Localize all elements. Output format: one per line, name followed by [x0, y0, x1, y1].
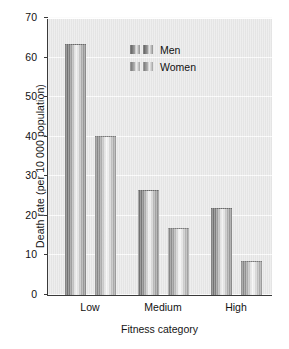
legend-chip-icon [143, 45, 153, 54]
gridline [48, 17, 272, 18]
y-tick-label: 30 [25, 169, 37, 181]
legend-swatch-women [130, 62, 153, 71]
legend-label-women: Women [160, 61, 196, 73]
legend-label-men: Men [160, 44, 180, 56]
y-axis-title: Death rate (per 10 000 population) [34, 26, 46, 306]
y-tick-label: 10 [25, 248, 37, 260]
y-tick-label: 50 [25, 90, 37, 102]
y-tick-label: 70 [25, 11, 37, 23]
bar-men-high [211, 208, 232, 295]
legend-item-men: Men [130, 41, 196, 58]
x-tick-label-medium: Medium [144, 301, 181, 313]
bar-men-medium [138, 190, 159, 295]
y-tick-mark: 50 [44, 96, 48, 97]
y-tick-mark: 20 [44, 215, 48, 216]
y-tick-mark: 30 [44, 175, 48, 176]
bar-women-medium [168, 228, 189, 295]
legend-chip-icon [143, 62, 153, 71]
y-tick-label: 0 [31, 288, 37, 300]
y-tick-mark: 70 [44, 17, 48, 18]
y-tick-label: 60 [25, 51, 37, 63]
x-axis-title: Fitness category [47, 323, 272, 335]
bar-chart-figure: Death rate (per 10 000 population) 0 10 … [0, 0, 289, 349]
y-tick-label: 20 [25, 209, 37, 221]
y-tick-mark: 0 [44, 294, 48, 295]
bar-women-high [241, 261, 262, 295]
x-tick-label-high: High [225, 301, 247, 313]
legend-swatch-men [130, 45, 153, 54]
y-tick-mark: 60 [44, 57, 48, 58]
legend-chip-icon [130, 45, 140, 54]
x-tick-label-low: Low [80, 301, 99, 313]
y-tick-mark: 40 [44, 136, 48, 137]
bar-women-low [95, 136, 116, 295]
y-tick-mark: 10 [44, 254, 48, 255]
bar-men-low [65, 44, 86, 295]
legend-chip-icon [130, 62, 140, 71]
legend: Men Women [130, 41, 196, 75]
legend-item-women: Women [130, 58, 196, 75]
y-tick-label: 40 [25, 130, 37, 142]
